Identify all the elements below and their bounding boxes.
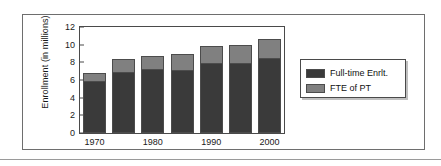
bar-segment-fte-part-time[interactable] bbox=[171, 54, 194, 71]
y-tick-label: 2 bbox=[70, 111, 80, 120]
bar-segment-full-time[interactable] bbox=[258, 59, 281, 133]
bar-segment-full-time[interactable] bbox=[112, 73, 135, 134]
bar-segment-full-time[interactable] bbox=[229, 64, 252, 133]
y-tick-label: 4 bbox=[70, 93, 80, 102]
bar-group[interactable] bbox=[141, 56, 164, 133]
figure-frame: Enrollment (in millions) 024681012 19701… bbox=[22, 14, 425, 150]
bar-segment-fte-part-time[interactable] bbox=[200, 46, 223, 65]
bar-group[interactable] bbox=[258, 38, 281, 133]
y-tick-label: 0 bbox=[70, 129, 80, 138]
bar-segment-fte-part-time[interactable] bbox=[112, 59, 135, 73]
y-tick-label: 12 bbox=[65, 23, 80, 32]
y-axis-title: Enrollment (in millions) bbox=[40, 6, 50, 118]
bars-layer bbox=[80, 27, 284, 133]
bar-segment-fte-part-time[interactable] bbox=[141, 56, 164, 71]
x-tick-label: 1980 bbox=[143, 137, 163, 147]
legend-swatch-icon bbox=[306, 84, 325, 93]
bar-segment-fte-part-time[interactable] bbox=[83, 73, 106, 81]
x-tick-label: 1990 bbox=[201, 137, 221, 147]
y-tick-label: 6 bbox=[70, 76, 80, 85]
chart-area: Enrollment (in millions) 024681012 19701… bbox=[23, 15, 313, 151]
legend-label: FTE of PT bbox=[330, 84, 371, 93]
bar-group[interactable] bbox=[112, 59, 135, 133]
plot-area: 024681012 bbox=[79, 26, 285, 134]
bar-segment-full-time[interactable] bbox=[83, 82, 106, 133]
legend-entry[interactable]: FTE of PT bbox=[306, 81, 371, 95]
bar-segment-fte-part-time[interactable] bbox=[258, 39, 281, 60]
bar-segment-full-time[interactable] bbox=[200, 64, 223, 133]
x-tick-label: 2000 bbox=[259, 137, 279, 147]
legend-label: Full-time Enrlt. bbox=[330, 69, 388, 78]
bar-segment-full-time[interactable] bbox=[141, 70, 164, 133]
y-tick-label: 10 bbox=[65, 40, 80, 49]
bar-segment-full-time[interactable] bbox=[171, 71, 194, 133]
bar-group[interactable] bbox=[83, 73, 106, 133]
bar-segment-fte-part-time[interactable] bbox=[229, 45, 252, 64]
legend-swatch-icon bbox=[306, 69, 325, 78]
x-tick-label: 1970 bbox=[85, 137, 105, 147]
y-tick-label: 8 bbox=[70, 58, 80, 67]
bar-group[interactable] bbox=[229, 45, 252, 133]
legend: Full-time Enrlt.FTE of PT bbox=[300, 59, 406, 98]
bar-group[interactable] bbox=[200, 46, 223, 133]
bar-group[interactable] bbox=[171, 54, 194, 133]
legend-entry[interactable]: Full-time Enrlt. bbox=[306, 66, 388, 80]
page-divider bbox=[0, 159, 441, 160]
